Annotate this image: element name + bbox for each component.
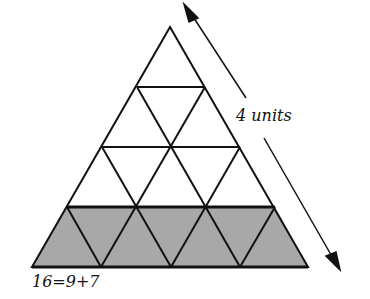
side-length-label: 4 units [236,106,292,125]
triangle-diagram [0,0,370,299]
equation-label: 16=9+7 [32,272,100,291]
arrow-down-head-icon [326,252,340,270]
shaded-bottom-row [32,207,308,267]
arrow-up-head-icon [184,4,198,22]
